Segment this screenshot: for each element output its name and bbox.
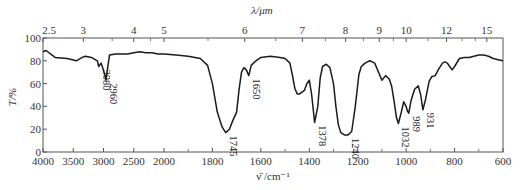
top-axis-title: λ/μm	[250, 4, 272, 16]
peak-label-1378: 1378	[317, 125, 328, 146]
peak-label-1650: 1650	[251, 79, 262, 100]
x-axis-ticks: 4000350030002500200018001600140012001000…	[32, 148, 512, 167]
x-tick-label: 3000	[93, 155, 116, 167]
top-tick-label: 7	[300, 24, 306, 36]
y-tick-label: 40	[30, 100, 42, 112]
y-axis-title: T/%	[6, 88, 18, 106]
top-tick-label: 8	[343, 24, 349, 36]
y-tick-label: 100	[25, 32, 42, 44]
y-tick-label: 80	[30, 55, 42, 67]
x-tick-label: 800	[446, 155, 463, 167]
peak-label-989: 989	[411, 116, 422, 132]
peak-label-1745: 1745	[228, 136, 239, 157]
x-tick-label: 600	[495, 155, 512, 167]
y-tick-label: 20	[30, 123, 42, 135]
top-tick-label: 15	[481, 24, 493, 36]
peak-label-1032: 1032	[400, 127, 411, 148]
peak-label-2960: 2960	[108, 83, 119, 104]
ir-spectrum-chart: 020406080100 400035003000250020001800160…	[0, 0, 524, 190]
top-tick-label: 5	[161, 24, 167, 36]
peak-labels: 3080296017451650137812401032989931	[101, 70, 436, 159]
y-tick-label: 60	[30, 78, 42, 90]
peak-label-1240: 1240	[350, 138, 361, 159]
top-axis-ticks: 2.53456789101215	[42, 24, 493, 42]
x-tick-label: 1400	[298, 155, 321, 167]
x-tick-label: 1600	[250, 155, 273, 167]
x-tick-label: 1800	[201, 155, 224, 167]
x-tick-label: 3500	[62, 155, 85, 167]
top-tick-label: 12	[441, 24, 452, 36]
x-tick-label: 4000	[32, 155, 55, 167]
top-tick-label: 3	[81, 24, 87, 36]
x-tick-label: 1000	[395, 155, 418, 167]
x-axis-title: ν̄ /cm⁻¹	[256, 170, 290, 182]
x-tick-label: 2000	[153, 155, 176, 167]
top-tick-label: 2.5	[42, 24, 56, 36]
top-tick-label: 10	[401, 24, 413, 36]
peak-label-931: 931	[425, 113, 436, 129]
top-tick-label: 9	[376, 24, 382, 36]
top-tick-label: 4	[131, 24, 137, 36]
x-tick-label: 2500	[123, 155, 146, 167]
top-tick-label: 6	[242, 24, 248, 36]
